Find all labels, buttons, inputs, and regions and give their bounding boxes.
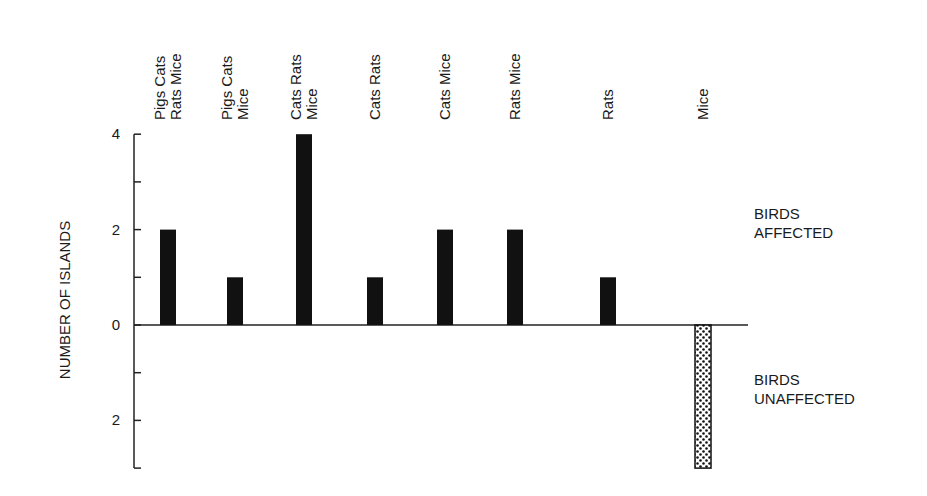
annotation-affected-line1: BIRDS <box>754 205 800 222</box>
bar-birds-affected <box>227 277 243 325</box>
y-tick-label: 0 <box>112 316 120 333</box>
category-label: Rats Mice <box>167 53 184 120</box>
bar-birds-affected <box>367 277 383 325</box>
bar-birds-affected <box>296 134 312 325</box>
category-label: Cats Mice <box>436 53 453 120</box>
bar-birds-unaffected <box>695 325 711 468</box>
annotation-unaffected-line2: UNAFFECTED <box>754 390 855 407</box>
bars <box>160 134 711 468</box>
category-label: Mice <box>234 88 251 120</box>
bar-birds-affected <box>437 230 453 325</box>
y-tick-label: 2 <box>112 221 120 238</box>
axes: 4202 <box>112 125 748 468</box>
bar-birds-affected <box>160 230 176 325</box>
y-tick-label: 4 <box>112 125 120 142</box>
bar-birds-affected <box>507 230 523 325</box>
y-axis-label: NUMBER OF ISLANDS <box>56 221 73 379</box>
category-label: Mice <box>303 88 320 120</box>
y-tick-label: 2 <box>112 411 120 428</box>
category-label: Rats Mice <box>506 53 523 120</box>
category-label: Rats <box>599 89 616 120</box>
category-label: Cats Rats <box>366 54 383 120</box>
category-label: Pigs Cats <box>218 56 235 120</box>
annotation-unaffected-line1: BIRDS <box>754 371 800 388</box>
annotation-affected-line2: AFFECTED <box>754 224 833 241</box>
category-labels: Pigs CatsRats MicePigs CatsMiceCats Rats… <box>151 53 711 120</box>
island-bird-chart: 4202 Pigs CatsRats MicePigs CatsMiceCats… <box>0 0 927 496</box>
bar-birds-affected <box>600 277 616 325</box>
category-label: Mice <box>694 88 711 120</box>
category-label: Pigs Cats <box>151 56 168 120</box>
category-label: Cats Rats <box>287 54 304 120</box>
